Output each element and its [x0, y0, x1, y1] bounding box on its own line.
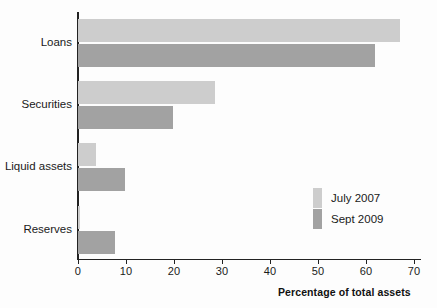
- x-tick-label-60: 60: [360, 265, 373, 277]
- bar-liquid-assets-sept-2009: [78, 168, 125, 191]
- y-axis-label-3: Reserves: [0, 223, 72, 235]
- legend-item-sept-2009: Sept 2009: [313, 208, 383, 229]
- x-tick-50: [318, 259, 319, 264]
- x-tick-label-30: 30: [216, 265, 229, 277]
- bar-securities-sept-2009: [78, 106, 173, 129]
- x-tick-60: [366, 259, 367, 264]
- x-tick-label-70: 70: [408, 265, 421, 277]
- x-tick-label-10: 10: [120, 265, 133, 277]
- legend: July 2007 Sept 2009: [313, 187, 383, 229]
- x-tick-10: [126, 259, 127, 264]
- y-axis-label-2: Liquid assets: [0, 160, 72, 172]
- x-tick-label-40: 40: [264, 265, 277, 277]
- bar-loans-sept-2009: [78, 44, 375, 67]
- legend-swatch-sept-2009: [313, 209, 322, 229]
- x-tick-0: [78, 259, 79, 264]
- bar-securities-july-2007: [78, 81, 215, 104]
- bar-reserves-sept-2009: [78, 231, 115, 254]
- x-tick-30: [222, 259, 223, 264]
- x-tick-label-50: 50: [312, 265, 325, 277]
- y-axis-category-labels: Loans Securities Liquid assets Reserves: [0, 0, 72, 308]
- legend-swatch-july-2007: [313, 188, 322, 208]
- y-axis-label-1: Securities: [0, 98, 72, 110]
- legend-label-sept-2009: Sept 2009: [331, 213, 383, 225]
- x-tick-label-0: 0: [75, 265, 81, 277]
- bar-reserves-july-2007: [78, 206, 80, 229]
- bar-liquid-assets-july-2007: [78, 143, 96, 166]
- bar-chart: Loans Securities Liquid assets Reserves …: [0, 0, 437, 308]
- x-tick-40: [270, 259, 271, 264]
- legend-item-july-2007: July 2007: [313, 187, 383, 208]
- bar-loans-july-2007: [78, 19, 400, 42]
- y-axis-label-0: Loans: [0, 36, 72, 48]
- legend-label-july-2007: July 2007: [331, 192, 380, 204]
- x-tick-label-20: 20: [168, 265, 181, 277]
- x-tick-70: [414, 259, 415, 264]
- x-tick-20: [174, 259, 175, 264]
- x-axis-title: Percentage of total assets: [278, 286, 411, 298]
